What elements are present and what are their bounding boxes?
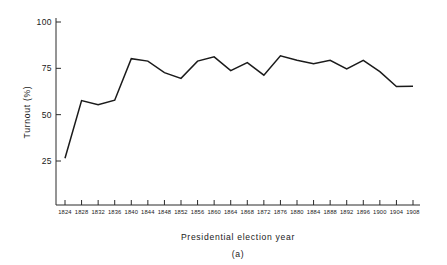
x-tick-label-1836: 1836 [108, 209, 122, 215]
x-tick-label-1896: 1896 [357, 209, 371, 215]
x-tick-label-1840: 1840 [125, 209, 139, 215]
x-tick-label-1876: 1876 [274, 209, 288, 215]
x-tick-label-1892: 1892 [340, 209, 354, 215]
x-tick-label-1908: 1908 [406, 209, 420, 215]
y-axis-title: Turnout (%) [22, 86, 32, 139]
figure-panel: 255075100 182418281832183618401844184818… [0, 0, 447, 265]
x-tick-label-1872: 1872 [257, 209, 271, 215]
x-tick-label-1824: 1824 [58, 209, 72, 215]
x-axis: 1824182818321836184018441848185218561860… [56, 200, 420, 215]
x-tick-label-1864: 1864 [224, 209, 238, 215]
y-tick-label-100: 100 [37, 17, 52, 27]
x-tick-label-1848: 1848 [158, 209, 172, 215]
x-tick-label-1868: 1868 [241, 209, 255, 215]
turnout-series-line [65, 56, 413, 158]
turnout-line-chart: 255075100 182418281832183618401844184818… [0, 0, 447, 265]
x-tick-label-1904: 1904 [390, 209, 404, 215]
x-tick-label-1880: 1880 [290, 209, 304, 215]
x-tick-label-1844: 1844 [141, 209, 155, 215]
y-tick-label-75: 75 [42, 63, 52, 73]
x-tick-label-1860: 1860 [207, 209, 221, 215]
x-tick-label-1888: 1888 [323, 209, 337, 215]
y-tick-label-25: 25 [42, 156, 52, 166]
x-tick-label-1856: 1856 [191, 209, 205, 215]
x-tick-label-1884: 1884 [307, 209, 321, 215]
x-axis-tick-labels: 1824182818321836184018441848185218561860… [58, 209, 420, 215]
x-axis-ticks [65, 200, 413, 205]
x-axis-title: Presidential election year [181, 232, 295, 242]
y-axis: 255075100 [37, 17, 61, 205]
x-tick-label-1900: 1900 [373, 209, 387, 215]
x-tick-label-1828: 1828 [75, 209, 89, 215]
y-axis-ticks [56, 22, 61, 161]
x-tick-label-1832: 1832 [91, 209, 105, 215]
figure-caption: (a) [232, 249, 245, 259]
x-tick-label-1852: 1852 [174, 209, 188, 215]
y-tick-label-50: 50 [42, 110, 52, 120]
y-axis-tick-labels: 255075100 [37, 17, 52, 166]
